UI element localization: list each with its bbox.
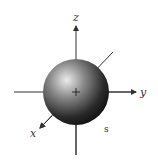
s-orbital-diagram: z y x s [0, 0, 158, 160]
orbital-label: s [104, 124, 109, 134]
x-axis-front [40, 116, 52, 128]
x-axis-label: x [30, 127, 37, 140]
y-axis-label: y [139, 86, 147, 99]
z-axis-label: z [72, 11, 79, 24]
